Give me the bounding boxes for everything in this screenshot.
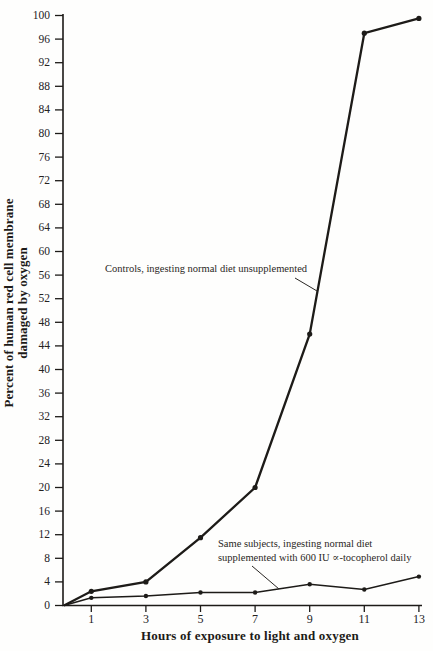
data-point-controls <box>416 16 421 21</box>
y-tick-label: 32 <box>8 410 50 423</box>
y-tick-label: 92 <box>8 56 50 69</box>
y-tick-label: 72 <box>8 174 50 187</box>
annotation-supplemented: Same subjects, ingesting normal diet sup… <box>218 537 411 564</box>
data-point-controls <box>89 589 94 594</box>
y-tick-label: 28 <box>8 434 50 447</box>
data-point-controls <box>143 579 148 584</box>
y-tick-label: 20 <box>8 481 50 494</box>
annotation-controls: Controls, ingesting normal diet unsupple… <box>105 262 307 276</box>
y-tick-label: 80 <box>8 127 50 140</box>
y-tick-label: 0 <box>8 599 50 612</box>
data-point-controls <box>198 535 203 540</box>
x-tick-label: 11 <box>349 613 379 626</box>
data-point-supplemented <box>89 596 93 600</box>
x-tick-label: 5 <box>186 613 216 626</box>
y-tick-label: 76 <box>8 151 50 164</box>
annotation-leader-supplemented <box>252 566 279 589</box>
annotation-leader-controls <box>295 278 317 291</box>
y-tick-label: 84 <box>8 103 50 116</box>
data-point-supplemented <box>308 582 312 586</box>
y-tick-label: 24 <box>8 457 50 470</box>
data-point-controls <box>307 332 312 337</box>
y-tick-label: 4 <box>8 575 50 588</box>
y-tick-label: 100 <box>8 9 50 22</box>
y-axis-title: Percent of human red cell membrane damag… <box>2 198 30 407</box>
data-point-supplemented <box>253 590 257 594</box>
data-point-supplemented <box>144 594 148 598</box>
axis-lines <box>63 14 422 606</box>
x-axis-title: Hours of exposure to light and oxygen <box>70 628 430 644</box>
y-tick-label: 12 <box>8 528 50 541</box>
data-point-supplemented <box>198 590 202 594</box>
series-line-controls <box>64 18 419 605</box>
y-tick-label: 8 <box>8 552 50 565</box>
x-tick-label: 1 <box>76 613 106 626</box>
x-tick-label: 9 <box>295 613 325 626</box>
data-point-controls <box>362 31 367 36</box>
y-tick-label: 16 <box>8 505 50 518</box>
x-tick-label: 3 <box>131 613 161 626</box>
x-tick-label: 13 <box>404 613 433 626</box>
y-tick-label: 96 <box>8 33 50 46</box>
y-tick-label: 88 <box>8 80 50 93</box>
x-tick-label: 7 <box>240 613 270 626</box>
data-point-supplemented <box>362 587 366 591</box>
chart-figure: 0481216202428323640444852566064687276808… <box>0 0 433 651</box>
data-point-controls <box>253 485 258 490</box>
data-point-supplemented <box>417 574 421 578</box>
